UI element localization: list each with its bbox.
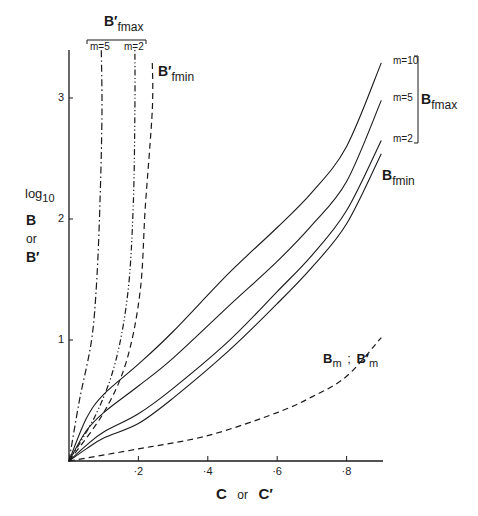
series-line <box>69 50 102 461</box>
bpm-sub: m <box>369 357 378 369</box>
bpfmin-label: B′fmin <box>158 64 194 78</box>
bfmin-label: Bfmin <box>382 168 415 182</box>
x-tick-label: ·4 <box>203 466 213 477</box>
ylabel-or: or <box>26 233 37 245</box>
xlabel-or: or <box>237 488 248 502</box>
bpfmin-main: B′ <box>158 63 171 79</box>
series-line <box>69 100 381 461</box>
ylabel-log-text: log <box>25 186 42 201</box>
bfmax-main: B <box>421 91 431 107</box>
y-tick-label: 1 <box>58 334 64 345</box>
x-tick-label: ·6 <box>272 466 282 477</box>
ylabel-Bprime: B′ <box>26 250 39 264</box>
chart-plot-area <box>0 0 478 516</box>
series-line <box>69 140 381 461</box>
data-series <box>69 50 381 461</box>
bm-main: B <box>323 351 332 366</box>
series-line <box>69 63 381 461</box>
x-tick-label: ·8 <box>342 466 352 477</box>
ylabel-log: log10 <box>25 187 55 200</box>
xlabel: C or C′ <box>216 486 273 502</box>
xlabel-C: C <box>216 485 227 502</box>
series-line <box>69 62 153 461</box>
bfmax-bracket <box>414 56 418 143</box>
y-tick-label: 3 <box>58 92 64 103</box>
bpfmax-sub: fmax <box>117 20 143 34</box>
bfmin-sub: fmin <box>392 174 415 188</box>
ylabel-B: B <box>26 213 36 227</box>
bfmax-sub: fmax <box>431 98 457 112</box>
m2-label: m=2 <box>393 134 413 144</box>
m10-label: m=10 <box>393 56 418 66</box>
x-tick-label: ·2 <box>133 466 143 477</box>
xlabel-Cprime: C′ <box>258 485 272 502</box>
bpm-main: B′ <box>356 351 369 366</box>
bm-sub: m <box>332 357 341 369</box>
bm-sep: ; <box>347 351 351 366</box>
bpfmax-label: B′fmax <box>104 14 143 28</box>
m5-label: m=5 <box>393 93 413 103</box>
y-tick-label: 2 <box>58 213 64 224</box>
bp-m5-label: m=5 <box>90 42 110 52</box>
bfmax-label: Bfmax <box>421 92 457 106</box>
bm-label: Bm ; B′m <box>323 352 378 365</box>
bp-m2-label: m=2 <box>124 42 144 52</box>
bpfmin-sub: fmin <box>171 70 194 84</box>
bfmin-main: B <box>382 167 392 183</box>
bpfmax-main: B′ <box>104 13 117 29</box>
ylabel-log-sub: 10 <box>42 192 54 204</box>
